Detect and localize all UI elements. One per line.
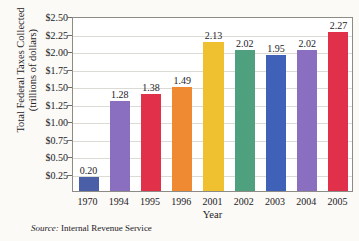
y-axis-tick-label: $2.25 xyxy=(28,29,68,40)
y-axis-tick-label: $0.75 xyxy=(28,134,68,145)
y-axis-tick-label: $0.25 xyxy=(28,169,68,180)
x-axis-title: Year xyxy=(72,209,353,220)
bar: 1.49 xyxy=(172,87,192,191)
bar-chart-figure: Total Federal Taxes Collected (trillions… xyxy=(0,0,359,241)
x-axis-tick-label: 2001 xyxy=(203,196,223,207)
y-axis-title-line1: Total Federal Taxes Collected xyxy=(15,7,26,132)
y-axis-tick-label: $0.50 xyxy=(28,152,68,163)
bar: 1.28 xyxy=(110,101,130,191)
bar-value-label: 0.20 xyxy=(80,165,98,176)
y-axis-tick-label: $2.00 xyxy=(28,47,68,58)
bar: 1.95 xyxy=(266,55,286,192)
bar-value-label: 2.02 xyxy=(236,38,254,49)
source-note: Source: Internal Revenue Service xyxy=(31,223,152,233)
bar-value-label: 2.02 xyxy=(298,38,316,49)
y-axis-tick-label: $1.75 xyxy=(28,64,68,75)
x-axis-tick-label: 2005 xyxy=(327,196,347,207)
y-axis-tick-label: $1.00 xyxy=(28,117,68,128)
bar-value-label: 1.28 xyxy=(111,89,129,100)
bar: 2.27 xyxy=(328,32,348,191)
x-axis-tick-label: 1994 xyxy=(109,196,129,207)
y-axis-tick-label: $2.50 xyxy=(28,12,68,23)
bar: 2.02 xyxy=(235,50,255,191)
bar-value-label: 1.38 xyxy=(142,82,160,93)
bar-value-label: 1.49 xyxy=(174,75,192,86)
y-axis-tick-label: $1.25 xyxy=(28,99,68,110)
bar-value-label: 2.13 xyxy=(205,30,223,41)
bar: 2.13 xyxy=(203,42,223,191)
bar-value-label: 1.95 xyxy=(267,43,285,54)
plot-area: 0.201.281.381.492.132.021.952.022.27 xyxy=(72,17,353,192)
x-axis-tick-label: 2003 xyxy=(265,196,285,207)
bar-value-label: 2.27 xyxy=(330,20,348,31)
y-axis-tick-label: $1.50 xyxy=(28,82,68,93)
source-label: Source: xyxy=(31,223,59,233)
x-axis-tick-label: 1970 xyxy=(78,196,98,207)
bar: 2.02 xyxy=(297,50,317,191)
x-axis-tick-label: 2002 xyxy=(234,196,254,207)
x-axis-tick-label: 1996 xyxy=(171,196,191,207)
x-axis-tick-label: 1995 xyxy=(140,196,160,207)
source-text: Internal Revenue Service xyxy=(61,223,152,233)
bar: 1.38 xyxy=(141,94,161,191)
bar: 0.20 xyxy=(79,177,99,191)
x-axis-tick-label: 2004 xyxy=(296,196,316,207)
